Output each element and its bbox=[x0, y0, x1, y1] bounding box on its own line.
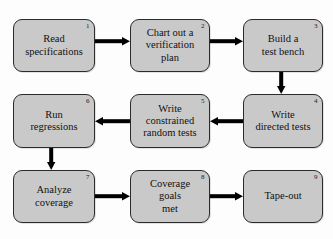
node-label: Read specifications bbox=[22, 33, 86, 57]
process-node-write-constrained-random-tests[interactable]: 5Write constrained random tests bbox=[130, 94, 210, 148]
process-node-write-directed-tests[interactable]: 4Write directed tests bbox=[243, 94, 323, 148]
process-node-coverage-goals-met[interactable]: 8Coverage goals met bbox=[130, 170, 210, 223]
node-label: Coverage goals met bbox=[147, 178, 193, 215]
arrow-read-specifications-to-chart-out-a-verification-plan bbox=[95, 36, 130, 46]
process-node-tape-out[interactable]: 9Tape-out bbox=[243, 170, 323, 223]
process-node-analyze-coverage[interactable]: 7Analyze coverage bbox=[13, 170, 95, 223]
node-step-number: 1 bbox=[86, 22, 90, 30]
flowchart-diagram: 1Read specifications2Chart out a verific… bbox=[0, 0, 333, 239]
arrow-analyze-coverage-to-coverage-goals-met bbox=[95, 191, 130, 201]
node-step-number: 3 bbox=[314, 22, 318, 30]
arrow-run-regressions-to-analyze-coverage bbox=[46, 148, 56, 170]
node-label: Chart out a verification plan bbox=[143, 27, 197, 64]
node-label: Run regressions bbox=[27, 109, 80, 133]
node-step-number: 8 bbox=[201, 173, 205, 181]
process-node-run-regressions[interactable]: 6Run regressions bbox=[13, 94, 95, 148]
node-step-number: 4 bbox=[314, 97, 318, 105]
node-step-number: 7 bbox=[86, 173, 90, 181]
node-step-number: 6 bbox=[86, 97, 90, 105]
arrow-write-constrained-random-tests-to-run-regressions bbox=[95, 116, 130, 126]
node-label: Analyze coverage bbox=[32, 184, 76, 208]
process-node-build-a-test-bench[interactable]: 3Build a test bench bbox=[243, 19, 323, 72]
node-label: Tape-out bbox=[261, 190, 304, 202]
node-step-number: 5 bbox=[201, 97, 205, 105]
node-label: Write directed tests bbox=[252, 109, 313, 133]
node-step-number: 2 bbox=[201, 22, 205, 30]
arrow-chart-out-a-verification-plan-to-build-a-test-bench bbox=[210, 36, 243, 46]
arrow-build-a-test-bench-to-write-directed-tests bbox=[276, 72, 286, 94]
arrow-coverage-goals-met-to-tape-out bbox=[210, 191, 243, 201]
node-label: Build a test bench bbox=[259, 33, 307, 57]
node-label: Write constrained random tests bbox=[140, 103, 199, 140]
process-node-chart-out-a-verification-plan[interactable]: 2Chart out a verification plan bbox=[130, 19, 210, 72]
node-step-number: 9 bbox=[314, 173, 318, 181]
process-node-read-specifications[interactable]: 1Read specifications bbox=[13, 19, 95, 72]
arrow-write-directed-tests-to-write-constrained-random-tests bbox=[210, 116, 243, 126]
